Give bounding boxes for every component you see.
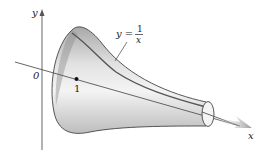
curve-label-lhs: y = (115, 28, 133, 39)
horn-diagram: y x 0 1 y = 1 x (0, 0, 269, 158)
curve-label-numerator: 1 (137, 24, 143, 34)
x-axis-arrow-icon (214, 116, 252, 128)
y-axis-arrow-icon (40, 9, 45, 16)
label-leader-line (115, 42, 127, 61)
point-one-dot (75, 77, 79, 81)
origin-label: 0 (33, 70, 40, 81)
y-axis-label: y (31, 7, 38, 18)
tick-one-label: 1 (74, 83, 80, 94)
x-axis-label: x (248, 130, 254, 141)
curve-label-denominator: x (136, 35, 141, 45)
